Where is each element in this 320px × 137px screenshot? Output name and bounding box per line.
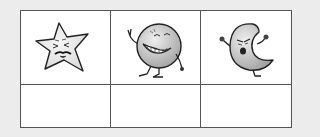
crescent-moon-character-icon xyxy=(213,18,279,78)
star-character-icon xyxy=(33,19,97,77)
answer-cell-2[interactable] xyxy=(110,85,201,128)
image-row xyxy=(21,11,292,85)
answer-cell-3[interactable] xyxy=(201,85,292,128)
answer-row xyxy=(21,85,292,128)
image-cell-round-moon xyxy=(110,11,201,85)
round-moon-character-icon xyxy=(121,16,189,80)
image-cell-crescent-moon xyxy=(201,11,292,85)
worksheet-table xyxy=(20,10,292,128)
answer-cell-1[interactable] xyxy=(21,85,111,128)
image-cell-star xyxy=(21,11,111,85)
